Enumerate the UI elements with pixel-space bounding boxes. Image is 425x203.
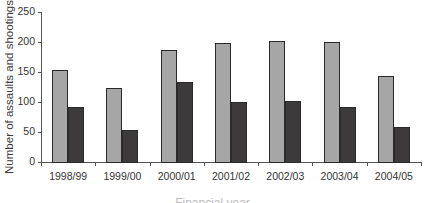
y-tick-mark — [38, 12, 42, 13]
bar-1999-00-series-2 — [122, 130, 138, 163]
y-tick-label: 100 — [13, 95, 35, 107]
x-tick-mark — [150, 162, 151, 166]
y-tick-mark — [38, 132, 42, 133]
bar-2000-01-series-2 — [177, 82, 193, 163]
bar-2004-05-series-1 — [378, 76, 394, 163]
bar-2000-01-series-1 — [161, 50, 177, 163]
x-tick-label: 2003/04 — [313, 170, 367, 182]
bar-chart: Number of assaults and shootings 0501001… — [0, 0, 425, 203]
y-tick-mark — [38, 42, 42, 43]
x-tick-mark — [258, 162, 259, 166]
y-tick-label: 0 — [13, 155, 35, 167]
bar-2004-05-series-2 — [394, 127, 410, 163]
bar-2001-02-series-2 — [231, 102, 247, 163]
bar-1998-99-series-2 — [68, 107, 84, 163]
x-tick-label: 2001/02 — [204, 170, 258, 182]
y-tick-mark — [38, 102, 42, 103]
bar-2002-03-series-1 — [269, 41, 285, 163]
bar-1999-00-series-1 — [106, 88, 122, 163]
y-tick-mark — [38, 72, 42, 73]
x-tick-mark — [312, 162, 313, 166]
x-tick-label: 2002/03 — [258, 170, 312, 182]
x-tick-mark — [95, 162, 96, 166]
x-tick-label: 1999/00 — [95, 170, 149, 182]
bar-1998-99-series-1 — [52, 70, 68, 163]
y-tick-label: 250 — [13, 5, 35, 17]
bar-2003-04-series-2 — [340, 107, 356, 163]
bar-2002-03-series-2 — [285, 101, 301, 163]
bar-2001-02-series-1 — [215, 43, 231, 163]
y-axis-label: Number of assaults and shootings — [3, 0, 15, 174]
x-tick-mark — [41, 162, 42, 166]
x-tick-label: 2004/05 — [367, 170, 421, 182]
x-tick-mark — [421, 162, 422, 166]
x-axis-label: Financial year — [0, 196, 425, 203]
x-tick-mark — [367, 162, 368, 166]
y-tick-label: 50 — [13, 125, 35, 137]
y-tick-label: 200 — [13, 35, 35, 47]
y-axis-line — [41, 12, 42, 163]
bar-2003-04-series-1 — [324, 42, 340, 163]
x-tick-mark — [204, 162, 205, 166]
x-tick-label: 2000/01 — [150, 170, 204, 182]
x-tick-label: 1998/99 — [41, 170, 95, 182]
y-tick-label: 150 — [13, 65, 35, 77]
